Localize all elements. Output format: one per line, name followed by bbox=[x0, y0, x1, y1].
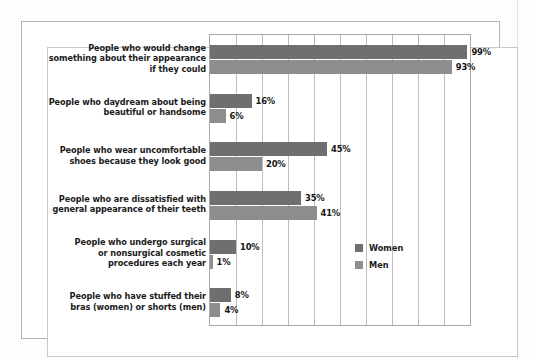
bar-value-label: 20% bbox=[266, 159, 285, 169]
category-label-4: People who undergo surgicalor nonsurgica… bbox=[28, 237, 206, 268]
category-label-5: People who have stuffed theirbras (women… bbox=[28, 291, 206, 312]
bar-value-label: 41% bbox=[321, 208, 340, 218]
bar-value-label: 16% bbox=[256, 96, 275, 106]
bar-row: 35% bbox=[210, 191, 472, 205]
bar-men-0 bbox=[210, 60, 452, 74]
gridline-80 bbox=[418, 35, 419, 325]
gridline-20 bbox=[262, 35, 263, 325]
bar-value-label: 10% bbox=[240, 242, 259, 252]
bar-row: 8% bbox=[210, 288, 472, 302]
bar-women-2 bbox=[210, 142, 327, 156]
gridline-70 bbox=[392, 35, 393, 325]
bar-men-4 bbox=[210, 255, 213, 269]
bar-men-2 bbox=[210, 157, 262, 171]
legend-item-men: Men bbox=[355, 260, 425, 270]
bar-row: 6% bbox=[210, 109, 472, 123]
category-label-column: People who would changesomething about t… bbox=[28, 34, 206, 326]
bar-value-label: 1% bbox=[217, 257, 231, 267]
bar-row: 41% bbox=[210, 206, 472, 220]
bar-value-label: 35% bbox=[305, 193, 324, 203]
bar-value-label: 8% bbox=[235, 290, 249, 300]
bar-row: 4% bbox=[210, 303, 472, 317]
legend-swatch-men-icon bbox=[355, 261, 363, 269]
grouped-bar-chart: People who would changesomething about t… bbox=[28, 28, 493, 332]
legend-swatch-women-icon bbox=[355, 244, 363, 252]
bar-row: 93% bbox=[210, 60, 472, 74]
chart-legend: Women Men bbox=[355, 243, 425, 277]
category-label-0: People who would changesomething about t… bbox=[28, 43, 206, 74]
gridline-60 bbox=[366, 35, 367, 325]
category-label-1: People who daydream about beingbeautiful… bbox=[28, 97, 206, 118]
gridline-10 bbox=[236, 35, 237, 325]
bar-row: 20% bbox=[210, 157, 472, 171]
legend-item-women: Women bbox=[355, 243, 425, 253]
bar-value-label: 93% bbox=[456, 62, 475, 72]
bar-row: 16% bbox=[210, 94, 472, 108]
category-label-2: People who wear uncomfortableshoes becau… bbox=[28, 145, 206, 166]
gridline-30 bbox=[288, 35, 289, 325]
bar-value-label: 4% bbox=[224, 305, 238, 315]
bar-row: 45% bbox=[210, 142, 472, 156]
bar-value-label: 99% bbox=[471, 47, 490, 57]
bar-row: 99% bbox=[210, 45, 472, 59]
bar-women-5 bbox=[210, 288, 231, 302]
plot-area: 99%93%16%6%45%20%35%41%10%1%8%4% Women M… bbox=[209, 34, 471, 326]
legend-label-women: Women bbox=[369, 243, 403, 253]
bar-men-5 bbox=[210, 303, 220, 317]
bar-women-1 bbox=[210, 94, 252, 108]
bar-row: 10% bbox=[210, 240, 472, 254]
gridline-50 bbox=[340, 35, 341, 325]
bar-women-4 bbox=[210, 240, 236, 254]
bar-women-0 bbox=[210, 45, 467, 59]
bar-men-3 bbox=[210, 206, 317, 220]
bar-row: 1% bbox=[210, 255, 472, 269]
gridline-40 bbox=[314, 35, 315, 325]
bar-value-label: 6% bbox=[230, 111, 244, 121]
page-background: People who would changesomething about t… bbox=[0, 0, 535, 358]
bar-value-label: 45% bbox=[331, 144, 350, 154]
category-label-3: People who are dissatisfied withgeneral … bbox=[28, 194, 206, 215]
gridline-90 bbox=[444, 35, 445, 325]
legend-label-men: Men bbox=[369, 260, 389, 270]
bar-women-3 bbox=[210, 191, 301, 205]
bar-men-1 bbox=[210, 109, 226, 123]
